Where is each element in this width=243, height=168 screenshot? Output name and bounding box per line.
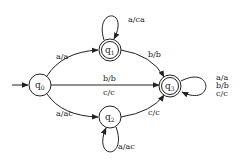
- label-q0-q3-bottom: c/c: [103, 88, 115, 97]
- label-q0-q2: a/ac: [56, 109, 73, 118]
- self-loop-q3: [181, 77, 206, 96]
- state-q2: q2: [99, 106, 121, 128]
- label-q0-q1: a/a: [56, 52, 68, 61]
- self-loop-q1: [102, 16, 118, 40]
- label-q0-q3-top: b/b: [103, 74, 116, 83]
- label-q1-loop: a/ca: [128, 15, 145, 24]
- self-loop-q2: [103, 127, 119, 152]
- label-q2-q3: c/c: [148, 108, 160, 117]
- state-diagram: q0 q1 q2 q3 a/a a/ac b/b c/c a/ca b/b a/…: [0, 0, 243, 168]
- edge-q0-q1: [47, 50, 98, 76]
- label-q3-loop-c: c/c: [216, 89, 228, 98]
- label-q2-loop: a/ac: [118, 142, 135, 151]
- state-q3: q3: [159, 75, 181, 97]
- state-q1: q1: [99, 39, 121, 61]
- state-q0: q0: [29, 74, 51, 96]
- label-q1-q3: b/b: [148, 50, 161, 59]
